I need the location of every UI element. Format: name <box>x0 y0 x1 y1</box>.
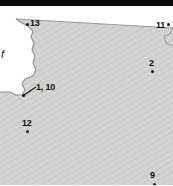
landmass-region <box>0 0 173 185</box>
site-label-12: 12 <box>22 119 32 128</box>
site-marker-9[interactable] <box>153 183 156 186</box>
site-marker-11[interactable] <box>167 23 170 26</box>
landmass-svg <box>0 0 173 185</box>
site-label-9: 9 <box>150 171 155 180</box>
site-label-11: 11 <box>156 21 165 30</box>
water-body-label: f <box>1 49 4 60</box>
site-marker-1-10[interactable] <box>22 94 25 97</box>
site-label-1-10: 1, 10 <box>36 83 55 92</box>
site-marker-13[interactable] <box>26 23 29 26</box>
map-figure: f 13 11 2 1, 10 12 9 <box>0 0 173 185</box>
site-marker-2[interactable] <box>151 70 154 73</box>
land-fill <box>0 0 173 185</box>
site-label-2: 2 <box>149 59 154 68</box>
site-marker-12[interactable] <box>26 130 29 133</box>
site-label-13: 13 <box>30 19 40 28</box>
